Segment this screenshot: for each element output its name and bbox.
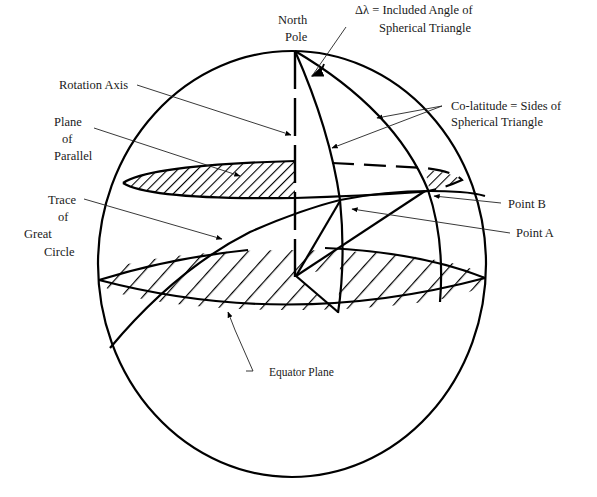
label-trace-line1: Trace (48, 193, 76, 207)
label-included-angle: Δλ = Included Angle of Spherical Triangl… (355, 3, 473, 35)
label-plane-line1: Plane (54, 115, 82, 129)
label-trace-line3: Great (24, 227, 52, 241)
label-trace-line4: Circle (44, 245, 75, 259)
label-north-pole-line1: North (278, 13, 308, 27)
label-trace-line2: of (58, 210, 69, 224)
label-included-angle-line1: Δλ = Included Angle of (355, 3, 473, 17)
equator-plane (99, 248, 485, 313)
label-point-a: Point A (516, 226, 554, 240)
label-included-angle-line2: Spherical Triangle (379, 21, 471, 35)
label-north-pole-line2: Pole (285, 30, 308, 44)
label-trace-great-circle: Trace of Great Circle (24, 193, 76, 259)
label-point-b: Point B (508, 197, 546, 211)
label-plane-line2: of (62, 132, 73, 146)
label-co-latitude: Co-latitude = Sides of Spherical Triangl… (451, 99, 562, 129)
label-equator-plane: Equator Plane (269, 366, 334, 379)
spherical-triangle-diagram: North Pole Δλ = Included Angle of Spheri… (0, 0, 597, 497)
label-co-latitude-line1: Co-latitude = Sides of (451, 99, 562, 113)
label-plane-line3: Parallel (54, 149, 93, 163)
label-north-pole: North Pole (278, 13, 308, 44)
label-plane-of-parallel: Plane of Parallel (54, 115, 93, 163)
plane-of-parallel (123, 161, 462, 198)
label-co-latitude-line2: Spherical Triangle (451, 115, 543, 129)
label-rotation-axis: Rotation Axis (59, 78, 128, 92)
